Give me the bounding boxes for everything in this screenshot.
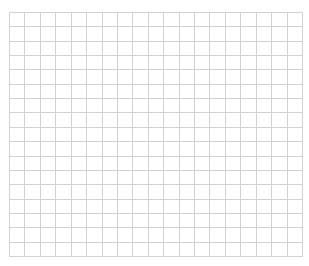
grid-background <box>0 0 309 266</box>
canvas <box>0 0 309 266</box>
grid-paper <box>0 0 309 266</box>
